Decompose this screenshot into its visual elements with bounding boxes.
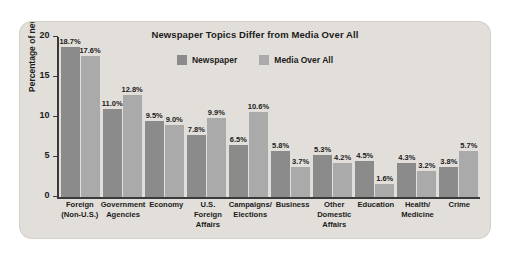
bar-media-over-all[interactable]: 17.6% [81, 56, 100, 197]
bar-value-label: 3.2% [418, 161, 435, 170]
bar-group: 18.7%17.6% [59, 37, 101, 197]
bar-group: 11.0%12.8% [101, 37, 143, 197]
bar-media-over-all[interactable]: 12.8% [123, 95, 142, 197]
y-tick-label-5: 5 [44, 150, 49, 160]
x-axis-label: Government Agencies [101, 200, 146, 230]
bar-group: 7.8%9.9% [185, 37, 227, 197]
bar-value-label: 5.8% [272, 141, 289, 150]
bar-media-over-all[interactable]: 3.7% [291, 167, 310, 197]
bar-value-label: 6.5% [230, 135, 247, 144]
bar-value-label: 17.6% [79, 46, 100, 55]
bar-value-label: 4.5% [356, 151, 373, 160]
bar-group: 5.3%4.2% [312, 37, 354, 197]
x-axis-label: Crime [438, 200, 480, 230]
bar-newspaper[interactable]: 9.5% [145, 121, 164, 197]
bar-group: 4.3%3.2% [396, 37, 438, 197]
bar-value-label: 5.7% [460, 141, 477, 150]
bar-value-label: 18.7% [59, 37, 80, 46]
bar-media-over-all[interactable]: 9.9% [207, 118, 226, 197]
y-axis-label: Percentage of newshole [27, 22, 37, 92]
bar-media-over-all[interactable]: 1.6% [375, 184, 394, 197]
x-axis-label: Economy [145, 200, 187, 230]
bar-media-over-all[interactable]: 9.0% [165, 125, 184, 197]
bar-newspaper[interactable]: 11.0% [103, 109, 122, 197]
bar-group: 4.5%1.6% [354, 37, 396, 197]
bar-media-over-all[interactable]: 3.2% [417, 171, 436, 197]
bar-group: 3.8%5.7% [438, 37, 480, 197]
x-axis-label: Business [272, 200, 314, 230]
bar-value-label: 1.6% [376, 174, 393, 183]
bar-value-label: 3.7% [292, 157, 309, 166]
x-axis-label: U.S. Foreign Affairs [187, 200, 229, 230]
bar-value-label: 12.8% [122, 85, 143, 94]
x-axis-line [57, 197, 480, 199]
y-tick-5: 5 [53, 156, 58, 158]
bar-value-label: 4.3% [398, 153, 415, 162]
y-tick-15: 15 [53, 76, 58, 78]
bar-media-over-all[interactable]: 4.2% [333, 163, 352, 197]
bar-value-label: 9.9% [208, 108, 225, 117]
bar-media-over-all[interactable]: 5.7% [459, 151, 478, 197]
y-tick-label-20: 20 [39, 30, 49, 40]
bar-value-label: 9.5% [146, 111, 163, 120]
bar-groups: 18.7%17.6%11.0%12.8%9.5%9.0%7.8%9.9%6.5%… [59, 37, 480, 197]
y-tick-20: 20 [53, 36, 58, 38]
bar-newspaper[interactable]: 5.8% [271, 151, 290, 197]
bar-value-label: 5.3% [314, 145, 331, 154]
bar-group: 5.8%3.7% [269, 37, 311, 197]
x-axis-label: Campaigns/ Elections [229, 200, 272, 230]
bar-newspaper[interactable]: 5.3% [313, 155, 332, 197]
y-tick-10: 10 [53, 116, 58, 118]
bar-value-label: 9.0% [166, 115, 183, 124]
x-axis-label: Health/ Medicine [397, 200, 439, 230]
y-tick-0: 0 [53, 196, 58, 198]
x-axis-label: Other Domestic Affairs [313, 200, 355, 230]
x-axis-label: Education [355, 200, 397, 230]
bar-newspaper[interactable]: 7.8% [187, 135, 206, 197]
bar-value-label: 10.6% [248, 102, 269, 111]
bar-value-label: 11.0% [102, 99, 123, 108]
y-tick-label-15: 15 [39, 70, 49, 80]
chart-figure: Newspaper Topics Differ from Media Over … [20, 22, 490, 238]
bar-newspaper[interactable]: 6.5% [229, 145, 248, 197]
bar-group: 6.5%10.6% [227, 37, 269, 197]
bar-value-label: 7.8% [188, 125, 205, 134]
bar-group: 9.5%9.0% [143, 37, 185, 197]
x-axis-label: Foreign (Non-U.S.) [59, 200, 101, 230]
bar-newspaper[interactable]: 3.8% [439, 167, 458, 197]
y-tick-label-10: 10 [39, 110, 49, 120]
y-tick-label-0: 0 [44, 190, 49, 200]
bar-newspaper[interactable]: 4.3% [397, 163, 416, 197]
bar-newspaper[interactable]: 18.7% [61, 47, 80, 197]
bar-media-over-all[interactable]: 10.6% [249, 112, 268, 197]
bar-value-label: 3.8% [440, 157, 457, 166]
x-axis-labels: Foreign (Non-U.S.)Government AgenciesEco… [59, 200, 480, 230]
bar-newspaper[interactable]: 4.5% [355, 161, 374, 197]
bar-value-label: 4.2% [334, 153, 351, 162]
plot-area: 05101520 18.7%17.6%11.0%12.8%9.5%9.0%7.8… [57, 37, 482, 197]
